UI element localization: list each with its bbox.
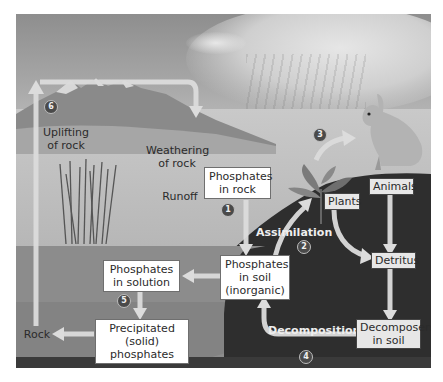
phosphates-soil-line1: Phosphates <box>225 258 285 271</box>
phosphates-in-solution-box: Phosphates in solution <box>103 260 180 292</box>
step-badge-5: 5 <box>117 294 131 308</box>
phosphates-in-soil-box: Phosphates in soil (inorganic) <box>220 255 290 300</box>
animals-box: Animals <box>369 178 414 195</box>
rock-label: Rock <box>22 328 52 341</box>
uplifting-of-rock-label: Uplifting of rock <box>38 126 94 152</box>
phosphates-solution-line2: in solution <box>108 276 175 289</box>
uplifting-line2: of rock <box>38 139 94 152</box>
phosphates-in-rock-box: Phosphates in rock <box>204 167 271 199</box>
step-badge-3: 3 <box>313 128 327 142</box>
phosphates-soil-line2: in soil <box>225 271 285 284</box>
decomposers-in-soil-box: Decomposers in soil <box>356 319 421 349</box>
weathering-line1: Weathering <box>146 144 208 157</box>
plants-box: Plants <box>324 193 360 210</box>
phosphates-solution-line1: Phosphates <box>108 263 175 276</box>
precipitated-line1: Precipitated <box>100 322 184 335</box>
runoff-label: Runoff <box>160 190 200 203</box>
step-badge-2: 2 <box>297 240 311 254</box>
step-badge-6: 6 <box>44 100 58 114</box>
phosphates-rock-line2: in rock <box>209 183 266 196</box>
phosphates-rock-line1: Phosphates <box>209 170 266 183</box>
precipitated-phosphates-box: Precipitated (solid) phosphates <box>95 319 189 364</box>
precipitated-line2: (solid) phosphates <box>100 335 184 361</box>
detritus-box: Detritus <box>371 252 416 269</box>
assimilation-label: Assimilation <box>256 226 332 239</box>
phosphates-soil-line3: (inorganic) <box>225 284 285 297</box>
decomposition-label: Decomposition <box>268 324 360 337</box>
uplifting-line1: Uplifting <box>38 126 94 139</box>
weathering-line2: of rock <box>146 157 208 170</box>
weathering-of-rock-label: Weathering of rock <box>146 144 208 170</box>
decomposers-line2: in soil <box>360 334 417 347</box>
step-badge-1: 1 <box>221 203 235 217</box>
step-badge-4: 4 <box>299 350 313 364</box>
decomposers-line1: Decomposers <box>360 321 417 334</box>
phosphorus-cycle-illustration: Uplifting of rock Weathering of rock Run… <box>16 14 431 368</box>
